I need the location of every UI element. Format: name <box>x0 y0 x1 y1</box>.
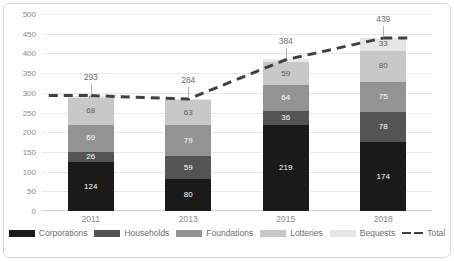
bar-segment-label: 64 <box>281 94 290 102</box>
bar-segment[interactable]: 64 <box>263 85 309 110</box>
bar-segment[interactable]: 124 <box>68 162 114 211</box>
bar-segment-label: 26 <box>86 153 95 161</box>
legend-item[interactable]: Corporations <box>9 228 88 238</box>
bar-segment[interactable]: 79 <box>165 125 211 156</box>
legend-swatch <box>330 230 356 237</box>
bar-segment-label: 33 <box>379 40 388 48</box>
x-axis-label: 2013 <box>165 214 211 224</box>
total-value-label: 284 <box>181 75 195 85</box>
legend-label: Lotteries <box>290 228 323 238</box>
plot-area: 6686926124363795980759643621933807578174… <box>42 14 432 211</box>
y-tick-label: 0 <box>6 207 36 216</box>
bar-segment[interactable]: 59 <box>165 156 211 179</box>
chart-container: 500 450 400 350 300 250 200 150 100 50 0… <box>0 0 454 261</box>
gridline <box>42 34 432 35</box>
legend-line-swatch <box>402 232 423 235</box>
total-value-label: 439 <box>376 14 390 24</box>
y-tick-label: 250 <box>6 108 36 117</box>
total-label-leader <box>286 48 287 59</box>
bar-segment-label: 79 <box>184 137 193 145</box>
legend-label: Foundations <box>206 228 253 238</box>
bar-stack[interactable]: 363795980 <box>165 99 211 211</box>
legend-swatch <box>176 230 202 237</box>
bar-segment[interactable]: 174 <box>360 142 406 211</box>
y-tick-label: 350 <box>6 69 36 78</box>
bar-stack[interactable]: 6686926124 <box>68 96 114 211</box>
bar-segment-label: 68 <box>86 107 95 115</box>
bar-segment[interactable]: 80 <box>360 51 406 83</box>
bar-segment-label: 219 <box>279 164 292 172</box>
bar-segment-label: 59 <box>184 164 193 172</box>
total-polyline <box>91 38 384 99</box>
legend-item[interactable]: Total <box>402 228 445 238</box>
bar-segment[interactable]: 78 <box>360 112 406 143</box>
bar-segment[interactable]: 63 <box>165 100 211 125</box>
bar-segment-label: 36 <box>281 114 290 122</box>
bar-segment-label: 124 <box>84 183 97 191</box>
x-axis-label: 2011 <box>68 214 114 224</box>
legend-label: Bequests <box>360 228 395 238</box>
x-axis-label: 2018 <box>360 214 406 224</box>
legend-swatch <box>94 230 120 237</box>
bar-segment[interactable]: 68 <box>68 98 114 125</box>
y-tick-label: 50 <box>6 187 36 196</box>
bar-segment-label: 59 <box>281 70 290 78</box>
y-tick-label: 200 <box>6 128 36 137</box>
legend-item[interactable]: Lotteries <box>260 228 323 238</box>
bar-segment[interactable]: 75 <box>360 82 406 112</box>
y-tick-label: 100 <box>6 167 36 176</box>
bar-stack[interactable]: 33807578174 <box>360 38 406 211</box>
bar-segment[interactable]: 80 <box>165 179 211 211</box>
y-tick-label: 500 <box>6 10 36 19</box>
total-label-leader <box>91 84 92 95</box>
chart-legend: CorporationsHouseholdsFoundationsLotteri… <box>0 228 454 238</box>
legend-swatch <box>9 230 35 237</box>
legend-label: Households <box>124 228 169 238</box>
legend-label: Corporations <box>39 228 88 238</box>
bar-segment[interactable]: 33 <box>360 38 406 51</box>
bar-segment-label: 69 <box>86 134 95 142</box>
bar-segment[interactable]: 26 <box>68 152 114 162</box>
legend-item[interactable]: Households <box>94 228 169 238</box>
total-label-leader <box>188 87 189 98</box>
bar-segment-label: 80 <box>379 62 388 70</box>
legend-swatch <box>260 230 286 237</box>
y-tick-label: 450 <box>6 29 36 38</box>
bar-segment[interactable]: 36 <box>263 111 309 125</box>
total-value-label: 384 <box>279 36 293 46</box>
y-tick-label: 150 <box>6 147 36 156</box>
legend-label: Total <box>427 228 445 238</box>
total-value-label: 293 <box>84 72 98 82</box>
bar-segment[interactable]: 59 <box>263 62 309 85</box>
bar-segment-label: 78 <box>379 123 388 131</box>
y-tick-label: 300 <box>6 88 36 97</box>
total-label-leader <box>383 26 384 37</box>
bar-segment-label: 80 <box>184 191 193 199</box>
legend-item[interactable]: Bequests <box>330 228 395 238</box>
bar-segment-label: 75 <box>379 93 388 101</box>
gridline <box>42 14 432 15</box>
legend-item[interactable]: Foundations <box>176 228 253 238</box>
bar-segment-label: 63 <box>184 109 193 117</box>
bar-segment[interactable]: 69 <box>68 125 114 152</box>
bar-stack[interactable]: 7596436219 <box>263 59 309 211</box>
bar-segment-label: 174 <box>377 173 390 181</box>
bar-segment[interactable]: 219 <box>263 125 309 211</box>
y-tick-label: 400 <box>6 49 36 58</box>
x-axis-label: 2015 <box>263 214 309 224</box>
